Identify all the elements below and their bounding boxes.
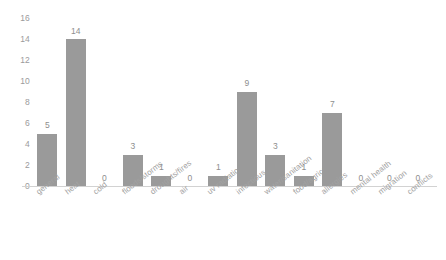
bar-group[interactable]: 9 [233, 26, 262, 186]
y-axis-tick-label: 8 [2, 98, 30, 107]
bar-chart: 0246810121416 5general14heat0cold3floods… [0, 0, 446, 260]
bar[interactable] [66, 39, 86, 186]
bar-group[interactable]: 7 [318, 26, 347, 186]
bar-group[interactable]: 0 [375, 26, 404, 186]
bar-group[interactable]: 3 [119, 26, 148, 186]
bar-value-label: 0 [176, 174, 205, 183]
bar-value-label: 7 [318, 100, 347, 109]
bar-group[interactable]: 0 [347, 26, 376, 186]
bar-group[interactable]: 0 [90, 26, 119, 186]
bar-group[interactable]: 1 [290, 26, 319, 186]
x-axis-line [22, 186, 437, 187]
y-axis-tick-label: 14 [2, 35, 30, 44]
bar-group[interactable]: 14 [62, 26, 91, 186]
y-axis-tick-label: 12 [2, 56, 30, 65]
y-axis: 0246810121416 [0, 0, 30, 260]
bar-group[interactable]: 0 [404, 26, 433, 186]
y-axis-tick-label: 6 [2, 119, 30, 128]
bar-value-label: 14 [62, 27, 91, 36]
bar-value-label: 5 [33, 121, 62, 130]
bar-value-label: 9 [233, 79, 262, 88]
bar-group[interactable]: 1 [147, 26, 176, 186]
bar-group[interactable]: 5 [33, 26, 62, 186]
y-axis-tick-label: 10 [2, 77, 30, 86]
plot-area: 5general14heat0cold3floods/storms1drough… [33, 0, 437, 260]
bar[interactable] [237, 92, 257, 187]
y-axis-tick-label: 4 [2, 140, 30, 149]
bar-group[interactable]: 0 [176, 26, 205, 186]
bar-group[interactable]: 1 [204, 26, 233, 186]
bar-value-label: 3 [119, 142, 148, 151]
y-axis-tick-label: 2 [2, 161, 30, 170]
bar-group[interactable]: 3 [261, 26, 290, 186]
y-axis-tick-label: 16 [2, 14, 30, 23]
bar-value-label: 3 [261, 142, 290, 151]
